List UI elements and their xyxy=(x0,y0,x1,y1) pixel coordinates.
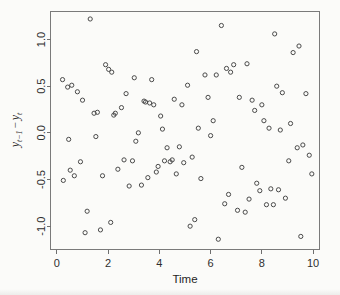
scatter-plot: 0246810 -1.0-0.50.00.51.0 Time yt−1−yt xyxy=(0,0,340,295)
data-point xyxy=(278,128,282,132)
data-point xyxy=(193,218,197,222)
data-point xyxy=(291,50,295,54)
data-point xyxy=(150,78,154,82)
data-points-layer xyxy=(60,17,313,241)
figure-page: 0246810 -1.0-0.50.00.51.0 Time yt−1−yt xyxy=(0,0,340,295)
data-point xyxy=(110,70,114,74)
data-point xyxy=(152,103,156,107)
data-point xyxy=(156,164,160,168)
data-point xyxy=(288,121,292,125)
data-point xyxy=(224,66,228,70)
data-point xyxy=(287,159,291,163)
data-point xyxy=(209,134,213,138)
data-point xyxy=(139,183,143,187)
data-point xyxy=(172,97,176,101)
data-point xyxy=(203,73,207,77)
data-point xyxy=(124,92,128,96)
data-point xyxy=(206,95,210,99)
data-point xyxy=(240,165,244,169)
data-point xyxy=(130,159,134,163)
y-tick-label: -1.0 xyxy=(35,217,47,236)
data-point xyxy=(116,167,120,171)
data-point xyxy=(219,23,223,27)
data-point xyxy=(216,237,220,241)
svg-text:yt−1−yt: yt−1−yt xyxy=(8,112,24,149)
data-point xyxy=(214,73,218,77)
data-point xyxy=(68,168,72,172)
data-point xyxy=(182,161,186,165)
y-axis: -1.0-0.50.00.51.0 xyxy=(35,32,51,236)
data-point xyxy=(247,197,251,201)
data-point xyxy=(235,208,239,212)
data-point xyxy=(100,174,104,178)
data-point xyxy=(134,139,138,143)
data-point xyxy=(180,103,184,107)
x-axis: 0246810 xyxy=(54,250,319,269)
data-point xyxy=(304,92,308,96)
data-point xyxy=(66,85,70,89)
data-point xyxy=(297,44,301,48)
data-point xyxy=(190,155,194,159)
data-point xyxy=(148,101,152,105)
data-point xyxy=(159,114,163,118)
data-point xyxy=(229,70,233,74)
data-point xyxy=(177,145,181,149)
data-point xyxy=(127,184,131,188)
data-point xyxy=(295,146,299,150)
y-tick-label: 1.0 xyxy=(35,32,47,47)
data-point xyxy=(60,78,64,82)
data-point xyxy=(253,108,257,112)
data-point xyxy=(162,159,166,163)
data-point xyxy=(243,210,247,214)
data-point xyxy=(109,220,113,224)
data-point xyxy=(83,231,87,235)
data-point xyxy=(301,143,305,147)
data-point xyxy=(276,188,280,192)
data-point xyxy=(264,203,268,207)
data-point xyxy=(70,83,74,87)
data-point xyxy=(75,90,79,94)
data-point xyxy=(146,176,150,180)
data-point xyxy=(310,172,314,176)
plot-frame xyxy=(51,12,320,250)
data-point xyxy=(165,146,169,150)
x-tick-label: 2 xyxy=(105,257,111,269)
x-axis-title: Time xyxy=(172,273,197,285)
data-point xyxy=(132,76,136,80)
data-point xyxy=(85,209,89,213)
data-point xyxy=(273,32,277,36)
data-point xyxy=(211,119,215,123)
y-axis-title: yt−1−yt xyxy=(8,112,24,149)
data-point xyxy=(196,126,200,130)
data-point xyxy=(72,174,76,178)
data-point xyxy=(67,137,71,141)
data-point xyxy=(267,126,271,130)
data-point xyxy=(280,91,284,95)
data-point xyxy=(61,178,65,182)
data-point xyxy=(119,106,123,110)
data-point xyxy=(255,181,259,185)
data-point xyxy=(258,189,262,193)
data-point xyxy=(199,176,203,180)
data-point xyxy=(94,134,98,138)
data-point xyxy=(262,119,266,123)
data-point xyxy=(78,160,82,164)
data-point xyxy=(260,103,264,107)
data-point xyxy=(269,187,273,191)
x-tick-label: 0 xyxy=(54,257,60,269)
data-point xyxy=(299,234,303,238)
data-point xyxy=(98,228,102,232)
data-point xyxy=(80,98,84,102)
data-point xyxy=(103,63,107,67)
data-point xyxy=(226,192,230,196)
y-tick-label: -0.5 xyxy=(35,170,47,189)
data-point xyxy=(122,158,126,162)
x-tick-label: 4 xyxy=(156,257,162,269)
data-point xyxy=(188,224,192,228)
data-point xyxy=(271,203,275,207)
data-point xyxy=(237,95,241,99)
data-point xyxy=(250,98,254,102)
data-point xyxy=(174,172,178,176)
data-point xyxy=(283,196,287,200)
data-point xyxy=(154,170,158,174)
